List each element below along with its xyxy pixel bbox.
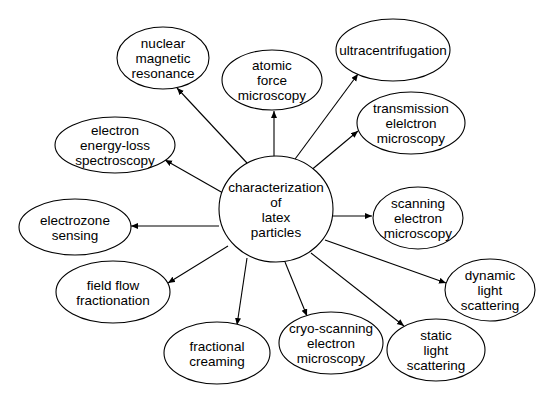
node-cryo-sem-label-line: cryo-scanning (289, 321, 373, 336)
arrow-to-cryo-sem (285, 262, 307, 316)
node-cryo-sem-label-line: microscopy (297, 351, 366, 366)
node-cryo-sem: cryo-scanningelectronmicroscopy (279, 312, 383, 374)
node-eels-label-line: spectroscopy (75, 153, 155, 168)
node-afm-label-line: atomic (252, 58, 292, 73)
node-afm-label-line: microscopy (238, 88, 307, 103)
node-ultracentrifugation: ultracentrifugation (336, 19, 450, 81)
node-nmr-label-line: resonance (131, 66, 194, 81)
node-eels: electronenergy-lossspectroscopy (55, 117, 175, 173)
node-afm-label-line: force (257, 73, 287, 88)
node-sem-label-line: microscopy (384, 226, 453, 241)
node-dls-label-line: light (478, 283, 503, 298)
node-nmr: nuclearmagneticresonance (117, 27, 209, 89)
latex-characterization-diagram: nuclearmagneticresonanceatomicforcemicro… (0, 0, 551, 399)
node-sls-label-line: light (424, 343, 449, 358)
node-electrozone-label-line: sensing (52, 228, 99, 243)
node-fractional-creaming: fractionalcreaming (164, 322, 270, 384)
node-nmr-label-line: magnetic (136, 51, 191, 66)
arrow-to-eels (165, 160, 223, 193)
node-sem: scanningelectronmicroscopy (373, 187, 463, 249)
node-tem: transmissionelelctronmicroscopy (357, 92, 465, 154)
node-fff: field flowfractionation (56, 261, 170, 323)
node-afm: atomicforcemicroscopy (222, 50, 322, 110)
node-tem-label-line: elelctron (385, 116, 436, 131)
node-sls: staticlightscattering (387, 319, 485, 381)
node-fff-label-line: field flow (87, 278, 140, 293)
node-fractional-creaming-label-line: creaming (189, 354, 245, 369)
node-sem-label-line: electron (394, 211, 442, 226)
node-sem-label-line: scanning (391, 196, 445, 211)
node-sls-label-line: scattering (407, 358, 466, 373)
nodes: nuclearmagneticresonanceatomicforcemicro… (19, 19, 535, 384)
node-ultracentrifugation-label-line: ultracentrifugation (339, 43, 446, 58)
node-nmr-label-line: nuclear (141, 36, 186, 51)
node-center-label-line: of (270, 195, 282, 210)
node-tem-label-line: microscopy (377, 131, 446, 146)
node-electrozone: electrozonesensing (19, 199, 131, 255)
node-center-label-line: characterization (228, 180, 323, 195)
node-center: characterizationoflatexparticles (219, 156, 333, 262)
arrow-to-fractional-creaming (237, 258, 247, 325)
node-eels-label-line: electron (91, 123, 139, 138)
node-fractional-creaming-label-line: fractional (190, 339, 245, 354)
node-eels-label-line: energy-loss (80, 138, 150, 153)
arrow-to-fff (168, 246, 228, 283)
node-dls-label-line: dynamic (465, 268, 516, 283)
node-center-label-line: latex (262, 210, 291, 225)
node-center-label-line: particles (251, 225, 302, 240)
node-fff-label-line: fractionation (76, 293, 150, 308)
node-tem-label-line: transmission (373, 101, 449, 116)
node-cryo-sem-label-line: electron (307, 336, 355, 351)
node-dls: dynamiclightscattering (445, 259, 535, 321)
node-sls-label-line: static (420, 328, 452, 343)
node-electrozone-label-line: electrozone (40, 213, 110, 228)
node-dls-label-line: scattering (461, 298, 520, 313)
